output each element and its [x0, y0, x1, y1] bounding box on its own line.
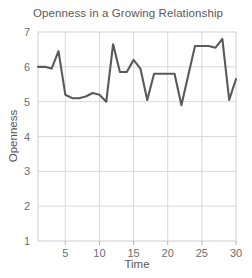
y-tick-label: 5 [24, 96, 30, 108]
x-tick-label: 10 [93, 247, 105, 259]
x-tick-label: 30 [230, 247, 242, 259]
x-tick-label: 5 [62, 247, 68, 259]
y-tick-label: 2 [24, 200, 30, 212]
x-axis-ticks: 51015202530 [62, 241, 242, 259]
x-tick-label: 25 [196, 247, 208, 259]
line-chart: 1234567 51015202530 Openness Time [0, 0, 252, 278]
data-series-line [38, 39, 236, 105]
x-tick-label: 20 [162, 247, 174, 259]
y-tick-label: 3 [24, 165, 30, 177]
y-tick-label: 7 [24, 26, 30, 38]
y-tick-label: 1 [24, 235, 30, 247]
chart-figure: Openness in a Growing Relationship 12345… [0, 0, 252, 278]
y-tick-label: 6 [24, 61, 30, 73]
y-axis-title: Openness [7, 110, 19, 163]
y-tick-label: 4 [24, 131, 30, 143]
y-axis-ticks: 1234567 [24, 26, 30, 247]
x-axis-title: Time [124, 258, 149, 270]
